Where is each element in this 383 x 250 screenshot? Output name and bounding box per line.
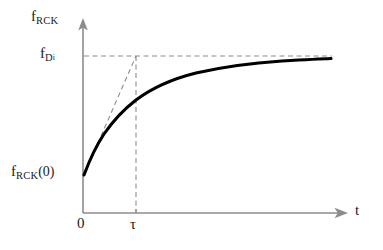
y-tick-label-initial-value: fRCK(0) <box>11 164 55 181</box>
fdi-subscript-i: i <box>53 53 55 62</box>
figure-plot-area <box>0 0 383 250</box>
x-tick-label-time-constant: τ <box>130 217 136 232</box>
y-axis <box>78 18 88 213</box>
x-axis <box>83 208 348 218</box>
x-tick-label-origin: 0 <box>77 216 85 231</box>
figure-container: fRCK fDi fRCK(0) 0 τ t <box>0 0 383 250</box>
x-axis-title: t <box>355 203 359 218</box>
y-tick-label-asymptote: fDi <box>40 46 55 63</box>
saturation-curve <box>84 59 331 176</box>
y-axis-title-subscript: RCK <box>36 15 58 26</box>
frck0-paren: (0) <box>38 164 54 179</box>
frck0-subscript: RCK <box>16 170 38 181</box>
fdi-subscript-d: D <box>45 52 53 63</box>
y-axis-title: fRCK <box>31 9 58 26</box>
